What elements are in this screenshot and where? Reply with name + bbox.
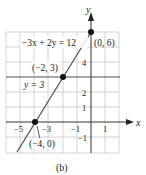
graph: y x −3x + 2y = 12 (0, 6) (−2, 3) y = 3 (… [0, 0, 146, 175]
x-tick-neg3: −3 [42, 124, 51, 134]
x-tick-neg1: −1 [71, 124, 80, 134]
y-tick-1: 1 [82, 103, 86, 113]
x-tick-neg5: −5 [14, 124, 23, 134]
y-tick-2: 2 [82, 88, 86, 98]
x-axis-label: x [135, 117, 141, 128]
point-neg4-0 [32, 119, 38, 125]
y-axis-label: y [85, 4, 91, 15]
grid [6, 32, 119, 153]
equation-label: −3x + 2y = 12 [22, 38, 76, 48]
point-label-neg4-0: (−4, 0) [29, 139, 55, 150]
point-neg2-3 [60, 74, 66, 80]
point-label-0-6: (0, 6) [94, 38, 115, 49]
x-axis-arrow-icon [126, 119, 134, 125]
point-0-6 [88, 29, 94, 35]
figure-caption: (b) [56, 162, 68, 174]
y-tick-4: 4 [82, 58, 87, 68]
horizontal-line-label: y = 3 [23, 80, 44, 90]
y-tick-neg1: −1 [78, 133, 87, 143]
x-tick-1: 1 [103, 124, 107, 134]
point-label-neg2-3: (−2, 3) [32, 63, 58, 74]
